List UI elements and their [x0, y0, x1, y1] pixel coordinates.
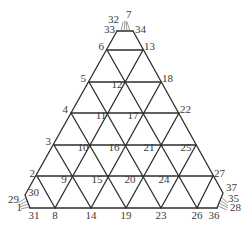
right-corner-hatch [218, 197, 228, 210]
node-label-2: 2 [30, 167, 36, 179]
node-label-11: 11 [96, 109, 107, 121]
node-label-37: 37 [226, 181, 238, 193]
node-label-26: 26 [192, 209, 204, 221]
node-label-23: 23 [156, 209, 168, 221]
node-label-30: 30 [28, 186, 40, 198]
triangular-mesh-diagram: 1234567891011121314151617181920212223242… [0, 0, 252, 230]
diag-dr-5 [37, 176, 55, 208]
node-label-24: 24 [159, 173, 171, 185]
node-label-22: 22 [180, 103, 191, 115]
node-label-34: 34 [135, 23, 147, 35]
node-label-20: 20 [125, 173, 137, 185]
node-label-3: 3 [46, 135, 52, 147]
node-label-15: 15 [92, 173, 104, 185]
node-label-27: 27 [214, 167, 226, 179]
node-label-17: 17 [128, 109, 140, 121]
node-label-31: 31 [29, 209, 40, 221]
diag-dr-1 [107, 50, 197, 208]
node-label-12: 12 [112, 78, 123, 90]
mesh-lines [18, 21, 228, 210]
node-label-35: 35 [228, 192, 240, 204]
node-label-14: 14 [86, 209, 98, 221]
node-label-16: 16 [109, 141, 121, 153]
node-label-25: 25 [181, 141, 193, 153]
node-label-10: 10 [78, 141, 90, 153]
node-label-33: 33 [104, 23, 116, 35]
top-corner-hatch [121, 21, 130, 31]
node-label-29: 29 [8, 193, 20, 205]
node-label-4: 4 [63, 103, 69, 115]
node-label-36: 36 [209, 209, 221, 221]
node-label-21: 21 [144, 141, 155, 153]
node-label-9: 9 [61, 173, 67, 185]
diag-dl-5 [197, 176, 213, 208]
node-label-19: 19 [121, 209, 133, 221]
node-label-7: 7 [126, 8, 132, 20]
node-label-6: 6 [99, 40, 105, 52]
node-label-8: 8 [52, 209, 58, 221]
node-label-5: 5 [81, 72, 87, 84]
node-label-18: 18 [162, 72, 174, 84]
node-label-13: 13 [144, 40, 156, 52]
